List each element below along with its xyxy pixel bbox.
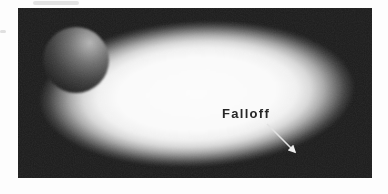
scan-artifact [33, 1, 79, 5]
scanned-figure-page: Falloff [0, 0, 388, 194]
falloff-render-figure: Falloff [18, 8, 372, 178]
occluding-sphere [43, 27, 109, 93]
scan-artifact [0, 30, 6, 33]
falloff-label: Falloff [222, 107, 270, 121]
